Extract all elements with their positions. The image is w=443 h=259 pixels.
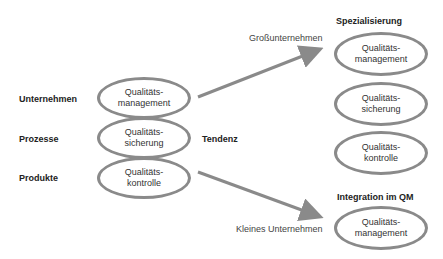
ellipse-qk-left: Qualitäts-kontrolle xyxy=(97,157,191,199)
label-kleines-unternehmen: Kleines Unternehmen xyxy=(236,224,323,234)
arrow-up xyxy=(198,50,318,97)
label-tendenz: Tendenz xyxy=(202,134,238,144)
ellipse-qm-left: Qualitäts-management xyxy=(97,77,191,119)
label-grossunternehmen: Großunternehmen xyxy=(249,33,323,43)
ellipse-qs-left: Qualitäts-sicherung xyxy=(97,117,191,159)
ellipse-qm-integration: Qualitäts-management xyxy=(334,206,428,250)
label-unternehmen: Unternehmen xyxy=(19,94,77,104)
title-spezialisierung: Spezialisierung xyxy=(336,16,402,26)
label-prozesse: Prozesse xyxy=(19,134,59,144)
ellipse-qs-right: Qualitäts-sicherung xyxy=(334,82,428,126)
label-produkte: Produkte xyxy=(19,173,58,183)
title-integration-im-qm: Integration im QM xyxy=(337,192,414,202)
ellipse-qm-right: Qualitäts-management xyxy=(334,32,428,76)
arrow-down xyxy=(198,172,318,216)
ellipse-qk-right: Qualitäts-kontrolle xyxy=(334,131,428,175)
